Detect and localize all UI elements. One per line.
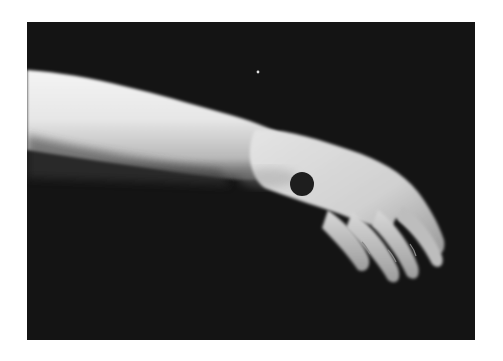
speck bbox=[257, 71, 260, 74]
marker-dot bbox=[290, 172, 314, 196]
wrist-shadow bbox=[238, 168, 298, 188]
arm-hand-illustration bbox=[27, 22, 475, 340]
photograph bbox=[27, 22, 475, 340]
